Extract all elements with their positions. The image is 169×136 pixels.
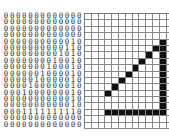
grid-cell [119, 123, 126, 129]
grid-cell [139, 123, 146, 129]
grid-cell [126, 123, 133, 129]
grid-cell [153, 123, 160, 129]
matrix-row: 0000000000000 [3, 122, 83, 128]
grid-row [85, 123, 169, 129]
grid-cell [112, 123, 119, 129]
grid-cell [92, 123, 99, 129]
grid-cell [133, 123, 140, 129]
matrix-digit: 0 [76, 122, 82, 128]
grid-cell [146, 123, 153, 129]
grid-cell [99, 123, 106, 129]
grid-cell [167, 123, 169, 129]
grid-cell [85, 123, 92, 129]
grid-cell [105, 123, 112, 129]
pixel-grid [84, 13, 169, 129]
grid-cell [160, 123, 167, 129]
binary-digit-matrix: 0000000000000000000000000000000000000000… [3, 13, 83, 128]
